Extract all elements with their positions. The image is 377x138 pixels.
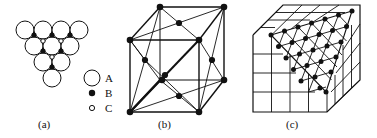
legend-label-b: B <box>105 87 112 99</box>
legend-symbol-a <box>84 70 100 86</box>
caption-a: (a) <box>38 118 51 131</box>
legend-label-a: A <box>105 72 113 84</box>
legend-symbol-b <box>89 90 95 96</box>
legend-symbol-c <box>89 105 94 110</box>
figure: A B C (a) <box>0 0 377 138</box>
caption-b: (b) <box>158 118 171 131</box>
legend-label-c: C <box>105 102 112 114</box>
panel-a <box>16 21 88 87</box>
legend: A B C <box>84 70 113 114</box>
caption-c: (c) <box>286 118 299 131</box>
